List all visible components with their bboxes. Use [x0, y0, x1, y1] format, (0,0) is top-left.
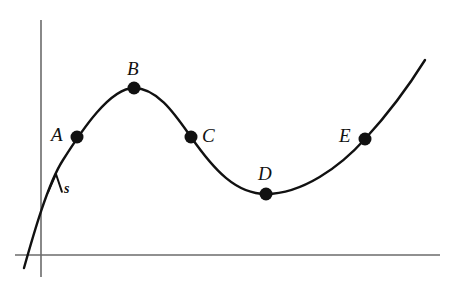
- point-C-label: C: [202, 126, 215, 145]
- point-C-dot: [185, 131, 198, 144]
- function-curve: [24, 60, 425, 268]
- diagram-canvas: [0, 0, 452, 299]
- point-D-label: D: [258, 164, 272, 183]
- point-E-label: E: [339, 126, 351, 145]
- point-A-dot: [71, 131, 84, 144]
- arc-length-label: s: [64, 182, 69, 196]
- point-B-label: B: [127, 59, 139, 78]
- curve-diagram: A B C D E s: [0, 0, 452, 299]
- direction-arrow-icon: [47, 174, 62, 193]
- point-D-dot: [260, 188, 273, 201]
- point-B-dot: [128, 82, 141, 95]
- point-E-dot: [359, 133, 372, 146]
- point-A-label: A: [51, 125, 63, 144]
